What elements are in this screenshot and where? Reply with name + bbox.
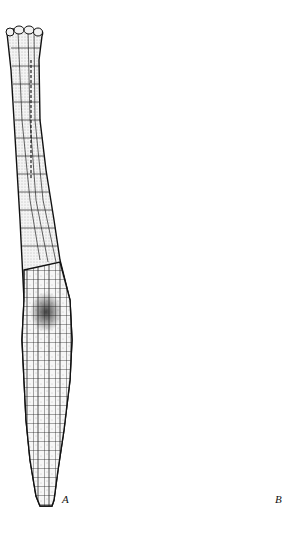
figure-a-label: A — [62, 493, 69, 505]
figure-b-label: B — [275, 493, 282, 505]
illustration-canvas — [0, 0, 294, 537]
figure-a — [6, 26, 72, 506]
figure-a-egg-cell — [30, 292, 62, 332]
